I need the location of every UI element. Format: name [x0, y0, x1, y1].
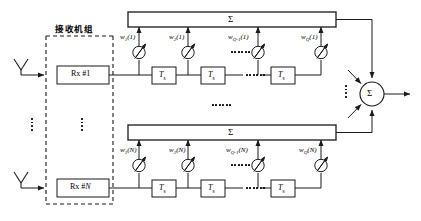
sum-bar-N-label: Σ [228, 128, 233, 137]
weight-label-1-Q-1: wQ-1(1) [228, 34, 249, 42]
final-adder-label: Σ [367, 89, 372, 98]
weight-label-N-Q-1: wQ-1(N) [226, 147, 248, 155]
weight-label-1-Q: wQ(1) [301, 34, 317, 42]
sum-bar-1-label: Σ [228, 15, 233, 24]
adder-input-lower [348, 105, 361, 119]
adder-input-ellipsis [345, 85, 347, 100]
weight-symbols-1 [133, 27, 328, 59]
adder-input-upper [348, 70, 361, 84]
weight-label-N-Q: wQ(N) [299, 147, 317, 155]
weight-label-N-1: w1(N) [120, 147, 137, 155]
rx-1-label: Rx #1 [71, 70, 90, 78]
weight-label-1-2: w2(1) [169, 34, 184, 42]
beamformer-block-diagram: 接收机组 w1(1) w2(1) wQ-1(1) wQ(1) w1(N) w2(… [0, 0, 421, 221]
tap-ellipsis-N-lower [246, 187, 265, 189]
antenna-N [14, 172, 28, 188]
delay-N-1-label: Ts [159, 184, 166, 194]
sum-bar-N-to-adder [336, 110, 372, 133]
sum-bar-1-to-adder [336, 20, 372, 79]
tap-ellipsis-1-lower [246, 74, 265, 76]
delay-N-3-label: Ts [278, 184, 285, 194]
tap-ellipsis-1-upper [231, 51, 250, 53]
delay-1-3-label: Ts [278, 71, 285, 81]
tap-ellipsis-N-upper [231, 164, 250, 166]
delay-N-2-label: Ts [208, 184, 215, 194]
weight-symbols-N [133, 140, 328, 172]
rx-N-label: Rx #N [70, 183, 91, 191]
receiver-bank-label: 接收机组 [55, 25, 93, 34]
branch-ellipsis-antenna [31, 118, 33, 133]
branch-ellipsis-middle [212, 104, 231, 106]
branch-ellipsis-rx [81, 118, 83, 133]
weight-label-N-2: w2(N) [169, 147, 186, 155]
weight-label-1-1: w1(1) [120, 34, 135, 42]
delay-1-1-label: Ts [159, 71, 166, 81]
delay-1-2-label: Ts [208, 71, 215, 81]
antenna-1 [14, 59, 28, 75]
